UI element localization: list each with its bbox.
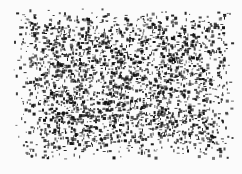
speckle-texture-image [0, 0, 242, 174]
noise-texture [0, 0, 242, 174]
